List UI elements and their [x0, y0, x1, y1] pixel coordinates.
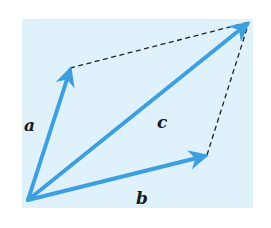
vector-diagram: a b c	[0, 0, 271, 228]
vector-b-label: b	[136, 188, 148, 208]
vector-c-label: c	[157, 112, 168, 132]
vector-a-label: a	[24, 115, 35, 135]
